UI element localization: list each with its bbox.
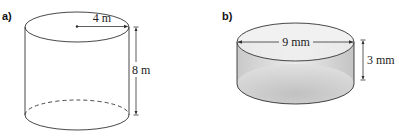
figure-canvas: a) 4 m 8 m b) [0,0,399,137]
figure-a-label: a) [2,10,12,22]
figure-a: a) 4 m 8 m [2,10,151,130]
height-arrow-down-icon [135,111,138,115]
diameter-label: 9 mm [282,35,310,49]
height-label-a: 8 m [132,63,151,77]
height-b-arrow-down-icon [362,76,365,80]
cylinder-a [25,12,129,130]
height-dimension-b [361,40,366,80]
height-label-b: 3 mm [367,53,395,67]
cylinder-a-bottom-front [25,115,129,130]
radius-arrowhead-icon [124,25,129,28]
height-b-arrow-up-icon [362,41,365,45]
figure-b-label: b) [222,10,233,22]
figure-b: b) 9 mm 3 mm [222,10,395,104]
radius-label: 4 m [93,11,112,25]
cylinder-a-bottom-back [25,100,129,115]
height-arrow-up-icon [135,28,138,32]
